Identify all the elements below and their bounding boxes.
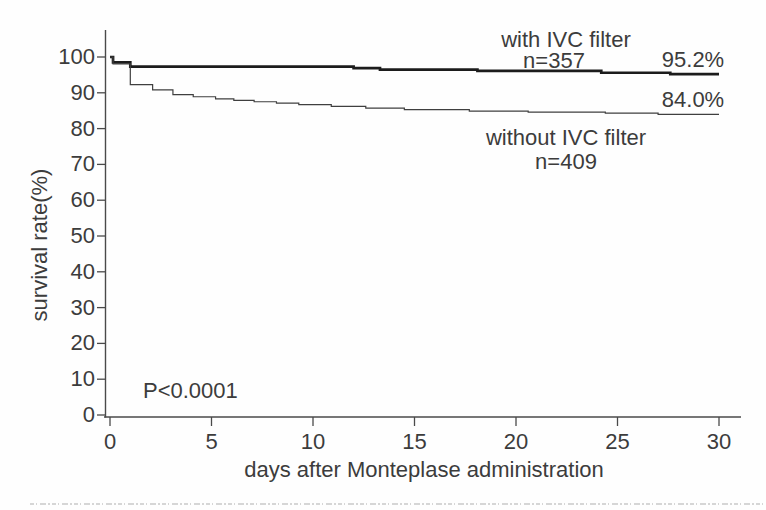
curve-with-IVC-filter	[110, 57, 719, 74]
series-without-filter-label: without IVC filter	[485, 125, 646, 150]
series-without-filter-final-value: 84.0%	[662, 87, 724, 112]
x-tick-label: 5	[205, 429, 217, 454]
x-tick-label: 10	[301, 429, 325, 454]
y-tick-label: 60	[71, 187, 95, 212]
y-axis-label: survival rate(%)	[27, 169, 52, 322]
y-tick-label: 20	[71, 330, 95, 355]
y-tick-label: 40	[71, 259, 95, 284]
y-tick-label: 70	[71, 151, 95, 176]
x-axis-label: days after Monteplase administration	[244, 457, 604, 482]
y-tick-label: 100	[58, 44, 95, 69]
y-tick-label: 80	[71, 116, 95, 141]
y-tick-label: 10	[71, 366, 95, 391]
y-tick-label: 0	[83, 402, 95, 427]
series-with-filter-n-label: n=357	[523, 48, 585, 73]
x-tick-label: 15	[402, 429, 426, 454]
y-tick-label: 30	[71, 295, 95, 320]
series-without-filter-n-label: n=409	[535, 149, 597, 174]
survival-curves	[110, 57, 719, 114]
series-with-filter-final-value: 95.2%	[662, 47, 724, 72]
x-tick-label: 30	[707, 429, 731, 454]
x-tick-label: 25	[605, 429, 629, 454]
y-tick-label: 90	[71, 80, 95, 105]
survival-figure: 0510152025300102030405060708090100 with …	[0, 0, 766, 510]
p-value-annotation: P<0.0001	[143, 378, 238, 403]
survival-chart: 0510152025300102030405060708090100 with …	[0, 0, 766, 510]
x-tick-label: 0	[104, 429, 116, 454]
x-tick-label: 20	[504, 429, 528, 454]
y-tick-label: 50	[71, 223, 95, 248]
